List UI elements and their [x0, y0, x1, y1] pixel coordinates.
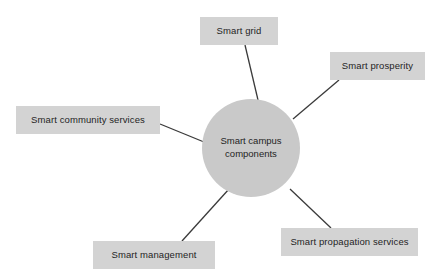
- node-label-smart-management: Smart management: [111, 250, 196, 260]
- node-label-smart-propagation-services: Smart propagation services: [290, 237, 408, 247]
- diagram-canvas: Smart grid Smart prosperity Smart commun…: [0, 0, 436, 278]
- node-label-smart-grid: Smart grid: [217, 26, 262, 36]
- hub-smart-campus-components[interactable]: Smart campus components: [202, 99, 300, 197]
- node-smart-prosperity[interactable]: Smart prosperity: [330, 52, 425, 80]
- node-smart-management[interactable]: Smart management: [93, 241, 215, 269]
- hub-label-line2: components: [225, 148, 277, 161]
- connector-smart-prosperity: [293, 80, 339, 119]
- node-label-smart-prosperity: Smart prosperity: [342, 61, 413, 71]
- connector-smart-grid: [245, 45, 258, 100]
- node-smart-grid[interactable]: Smart grid: [200, 17, 278, 45]
- connector-smart-propagation-services: [290, 189, 331, 228]
- connector-smart-management: [182, 189, 229, 241]
- node-label-smart-community-services: Smart community services: [31, 115, 145, 125]
- connector-smart-community-services: [160, 124, 204, 142]
- node-smart-propagation-services[interactable]: Smart propagation services: [281, 228, 418, 256]
- node-smart-community-services[interactable]: Smart community services: [16, 106, 160, 134]
- hub-label-line1: Smart campus: [220, 135, 281, 148]
